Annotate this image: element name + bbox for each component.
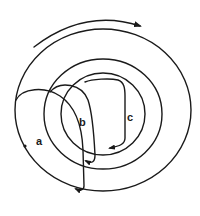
marker-dot: [23, 144, 26, 147]
concentric-loops-diagram: a b c: [0, 0, 200, 216]
loop-b: [50, 85, 95, 162]
outer-ring: [15, 29, 191, 191]
label-b: b: [79, 116, 86, 128]
label-a: a: [36, 135, 43, 147]
label-c: c: [127, 111, 133, 123]
rotation-arrow: [34, 20, 140, 47]
